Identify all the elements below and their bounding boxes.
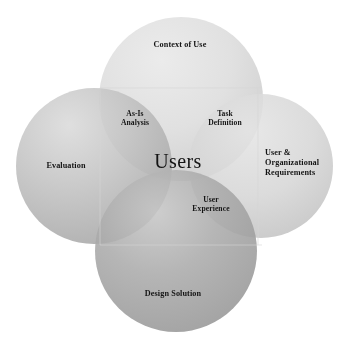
- label-context-of-use-text: Context of Use: [118, 40, 242, 50]
- venn-diagram: Context of Use Evaluation User & Organiz…: [0, 0, 340, 348]
- label-users-center: Users: [133, 150, 223, 174]
- label-user-org-req-line-2: Organizational: [265, 158, 340, 168]
- label-user-org-req-line-3: Requirements: [265, 168, 340, 178]
- label-users-text: Users: [133, 150, 223, 174]
- label-evaluation: Evaluation: [24, 161, 108, 171]
- label-as-is-analysis-line-2: Analysis: [105, 119, 165, 128]
- label-task-definition-line-2: Definition: [194, 119, 256, 128]
- label-as-is-analysis: As-Is Analysis: [105, 110, 165, 128]
- label-user-experience-line-2: Experience: [174, 205, 248, 214]
- label-design-solution-text: Design Solution: [114, 289, 232, 299]
- label-evaluation-text: Evaluation: [24, 161, 108, 171]
- label-design-solution: Design Solution: [114, 289, 232, 299]
- label-user-experience: User Experience: [174, 196, 248, 214]
- label-user-org-req-line-1: User &: [265, 148, 340, 158]
- label-task-definition: Task Definition: [194, 110, 256, 128]
- circle-design-solution: [95, 170, 257, 332]
- label-user-organizational-requirements: User & Organizational Requirements: [265, 148, 340, 178]
- label-context-of-use: Context of Use: [118, 40, 242, 50]
